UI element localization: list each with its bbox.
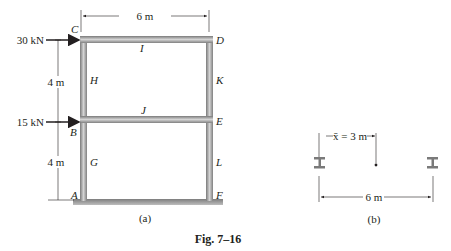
ground-support bbox=[73, 199, 223, 205]
load-30kn: 30 kN bbox=[17, 34, 79, 46]
span-label: 6 m bbox=[137, 10, 154, 22]
label-j: J bbox=[141, 104, 147, 116]
label-g: G bbox=[90, 156, 98, 168]
girder-middle bbox=[80, 116, 213, 123]
label-f: F bbox=[215, 189, 223, 201]
load-label: 30 kN bbox=[17, 34, 44, 46]
height-dimensions: 4 m 4 m bbox=[40, 40, 74, 200]
label-e: E bbox=[215, 115, 223, 127]
joint-labels: C D I H K J E B G L A F bbox=[70, 23, 224, 201]
column-section-right bbox=[427, 157, 438, 169]
load-label: 15 kN bbox=[17, 116, 44, 128]
label-k: K bbox=[215, 74, 224, 86]
figure-caption: Fig. 7–16 bbox=[195, 232, 242, 246]
label-l: L bbox=[215, 156, 222, 168]
frame-diagram: 6 m 30 kN 15 kN 4 m 4 m C D I H K J E B … bbox=[0, 0, 451, 251]
sublabel-b: (b) bbox=[368, 213, 381, 226]
part-b-diagram: x̄ = 3 m 6 m bbox=[314, 130, 438, 203]
label-c: C bbox=[71, 23, 79, 35]
span-label-b: 6 m bbox=[366, 191, 383, 203]
label-i: I bbox=[139, 42, 145, 54]
sublabel-a: (a) bbox=[139, 212, 152, 225]
span-dimension-a: 6 m bbox=[81, 10, 209, 32]
girder-top bbox=[80, 36, 213, 43]
label-a: A bbox=[70, 189, 78, 201]
centroid-label: x̄ = 3 m bbox=[333, 130, 367, 142]
frame-members bbox=[80, 36, 213, 201]
centroid-dot bbox=[375, 164, 378, 167]
label-b: B bbox=[70, 126, 77, 138]
label-d: D bbox=[215, 34, 224, 46]
height-label-lower: 4 m bbox=[48, 156, 65, 168]
column-section-left bbox=[314, 157, 325, 169]
height-label-upper: 4 m bbox=[48, 76, 65, 88]
label-h: H bbox=[89, 74, 99, 86]
